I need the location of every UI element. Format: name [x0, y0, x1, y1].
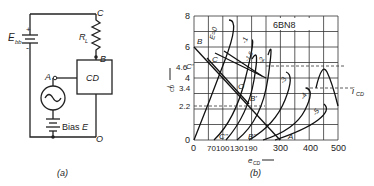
caption-a: (a)	[57, 168, 68, 178]
curve-label-m1-5: -1.5	[244, 50, 255, 63]
x-tick-130: 130	[230, 144, 244, 153]
caption-b: (b)	[250, 168, 261, 178]
x-tick-300: 300	[273, 143, 288, 153]
figure: E bb + - R L CD C B A O Bias E (a) 6BN8	[0, 0, 374, 186]
x-axis-sub: CD	[253, 160, 261, 166]
load-sub: L	[85, 38, 88, 44]
point-b-dprime: B''	[248, 132, 257, 141]
node-o-label: O	[96, 134, 103, 144]
node-c-label: C	[97, 8, 104, 18]
y-tick-8: 8	[185, 11, 190, 21]
node-a-terminal	[53, 76, 57, 80]
curve-label-m4: -4	[299, 92, 308, 101]
bias-label: Bias	[62, 122, 80, 132]
point-a: A	[287, 132, 293, 141]
y-tick-2-2: 2.2	[179, 102, 191, 111]
plus-sign: +	[26, 25, 31, 34]
x-tick-190: 190	[244, 144, 258, 153]
point-b: B	[197, 37, 203, 46]
x-tick-0: 0	[191, 143, 196, 153]
point-b-prime: B'	[250, 94, 257, 103]
y-axis-sub: CD	[169, 84, 175, 92]
signal-sub: CD	[356, 91, 364, 97]
node-a-label: A	[44, 72, 51, 82]
x-tick-500: 500	[331, 143, 346, 153]
y-tick-6: 6	[185, 42, 190, 52]
supply-sub: bb	[15, 39, 22, 45]
bias-var: E	[82, 122, 89, 132]
node-ground-dot	[51, 135, 55, 139]
tube-title: 6BN8	[273, 20, 296, 30]
x-tick-400: 400	[303, 143, 318, 153]
node-b-dot	[94, 55, 98, 59]
curve-label-m3: -3	[279, 76, 288, 85]
x-tick-100: 100	[216, 144, 230, 153]
y-tick-0: 0	[185, 135, 190, 145]
y-tick-4: 4	[185, 73, 190, 83]
curve-label-m2: -2	[257, 56, 266, 65]
curve-label-m1: -1	[240, 36, 249, 44]
point-o: O	[238, 82, 244, 91]
node-b-label: B	[100, 54, 106, 64]
point-c-dprime: C''	[219, 132, 228, 141]
device-label: CD	[86, 73, 99, 83]
minus-sign: -	[26, 43, 29, 53]
y-tick-3-4: 3.4	[179, 84, 191, 93]
signal-label: i	[352, 86, 355, 96]
point-c: C	[212, 55, 218, 64]
curve-label-e0: E=0	[208, 26, 218, 40]
load-line-c3	[207, 58, 249, 104]
point-c-prime: C'	[186, 62, 194, 71]
sine-icon	[45, 95, 61, 102]
dashed-levels	[194, 66, 355, 106]
resistor-rl	[92, 14, 100, 57]
supply-label: E	[8, 32, 15, 43]
